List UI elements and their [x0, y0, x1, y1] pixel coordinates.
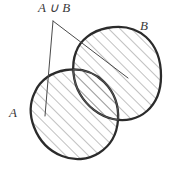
venn-diagram-canvas: A ∪ B A B — [0, 0, 173, 173]
set-b-label: B — [140, 18, 148, 33]
venn-diagram-figure: A ∪ B A B — [0, 0, 173, 173]
union-label: A ∪ B — [37, 0, 70, 15]
set-a-label: A — [8, 105, 17, 120]
